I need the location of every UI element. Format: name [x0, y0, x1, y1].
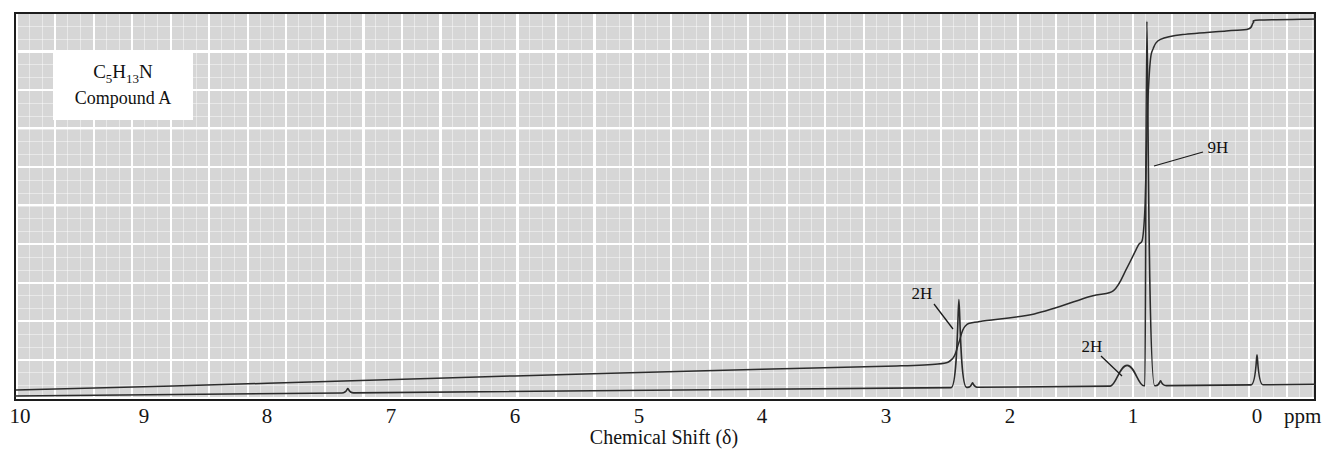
formula-element: C: [93, 61, 106, 82]
compound-name: Compound A: [75, 87, 172, 110]
spectrum-plot-area: [14, 12, 1316, 401]
formula-subscript: 13: [126, 71, 139, 86]
nmr-spectrum-figure: C5H13N Compound A 2H2H9H 109876543210 pp…: [0, 0, 1328, 451]
formula-element: H: [112, 61, 126, 82]
compound-formula: C5H13N: [93, 60, 153, 87]
x-axis-title: Chemical Shift (δ): [0, 426, 1328, 449]
formula-element: N: [139, 61, 153, 82]
compound-label-box: C5H13N Compound A: [53, 50, 193, 120]
